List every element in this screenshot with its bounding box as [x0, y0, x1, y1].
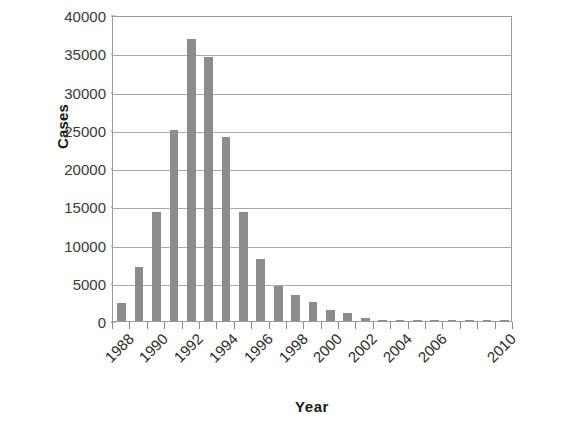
bar: [413, 320, 422, 321]
x-tick-label: 1996: [234, 330, 276, 372]
x-tick-mark: [390, 322, 391, 329]
x-tick-label: 2000: [304, 330, 346, 372]
x-tick-mark: [408, 322, 409, 329]
bars-series: [113, 17, 511, 321]
bar: [361, 318, 370, 321]
bar: [135, 267, 144, 321]
bar: [378, 320, 387, 321]
x-tick-mark: [495, 322, 496, 329]
bar: [170, 130, 179, 321]
x-tick-mark: [355, 322, 356, 329]
x-tick-mark: [477, 322, 478, 329]
bar: [396, 320, 405, 321]
x-tick-mark: [164, 322, 165, 329]
x-tick-label: 2010: [478, 330, 520, 372]
y-tick-label: 40000: [64, 8, 106, 25]
x-tick-label: 2006: [408, 330, 450, 372]
bar: [204, 57, 213, 321]
x-tick-mark: [303, 322, 304, 329]
x-tick-mark: [251, 322, 252, 329]
x-tick-label: 1988: [95, 330, 137, 372]
bar: [152, 212, 161, 321]
x-tick-mark: [199, 322, 200, 329]
x-tick-label: 1992: [165, 330, 207, 372]
y-axis-tick-labels: 4000035000300002500020000150001000050000: [18, 12, 112, 322]
x-tick-mark: [425, 322, 426, 329]
plot-area: [112, 16, 512, 322]
x-tick-mark: [147, 322, 148, 329]
bar: [117, 303, 126, 321]
y-tick-label: 5000: [73, 275, 106, 292]
x-tick-label: 2004: [373, 330, 415, 372]
x-tick-mark: [216, 322, 217, 329]
bar-chart-figure: Cases 4000035000300002500020000150001000…: [0, 0, 570, 437]
x-tick-mark: [373, 322, 374, 329]
y-tick-label: 25000: [64, 122, 106, 139]
x-axis-title: Year: [112, 398, 512, 415]
x-tick-label: 2002: [338, 330, 380, 372]
x-tick-mark: [234, 322, 235, 329]
bar: [448, 320, 457, 321]
x-tick-label: 1998: [269, 330, 311, 372]
x-tick-mark: [512, 322, 513, 329]
x-tick-mark: [338, 322, 339, 329]
y-tick-label: 30000: [64, 84, 106, 101]
bar: [309, 302, 318, 321]
x-tick-mark: [182, 322, 183, 329]
bar: [291, 295, 300, 321]
bar: [326, 310, 335, 321]
bar: [274, 286, 283, 321]
x-tick-mark: [112, 322, 113, 329]
bar: [343, 313, 352, 321]
x-tick-label: 1990: [130, 330, 172, 372]
y-tick-label: 10000: [64, 237, 106, 254]
x-axis-tick-marks: [112, 322, 512, 329]
y-tick-label: 35000: [64, 46, 106, 63]
x-tick-mark: [129, 322, 130, 329]
bar: [239, 212, 248, 321]
x-tick-label: 1994: [199, 330, 241, 372]
y-tick-label: 0: [98, 314, 106, 331]
y-tick-label: 15000: [64, 199, 106, 216]
x-tick-mark: [269, 322, 270, 329]
bar: [256, 259, 265, 321]
x-tick-mark: [321, 322, 322, 329]
bar: [483, 320, 492, 321]
bar: [187, 39, 196, 321]
bar: [500, 320, 509, 321]
x-tick-mark: [286, 322, 287, 329]
x-tick-mark: [460, 322, 461, 329]
bar: [222, 137, 231, 321]
bar: [465, 320, 474, 321]
x-axis-tick-labels: 1988199019921994199619982000200220042006…: [112, 330, 512, 386]
y-tick-label: 20000: [64, 161, 106, 178]
bar: [430, 320, 439, 321]
x-tick-mark: [442, 322, 443, 329]
